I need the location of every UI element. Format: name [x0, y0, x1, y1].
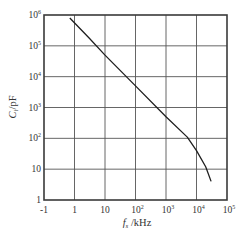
tick-label: 10 [100, 205, 110, 215]
y-label-unit: /pF [7, 95, 18, 109]
tick-label: 103 [162, 204, 175, 215]
data-curve [70, 18, 211, 181]
tick-label: 102 [131, 204, 144, 215]
grid-lines [44, 15, 227, 200]
tick-label: 104 [29, 71, 42, 82]
tick-label: 105 [29, 40, 42, 51]
tick-label: 1 [72, 205, 77, 215]
tick-label: 1 [36, 195, 41, 205]
tick-label: -1 [40, 205, 48, 215]
capacitance-frequency-chart: -1110102103104105 110102103104105106 fs … [0, 0, 239, 242]
y-axis-ticks: 110102103104105106 [29, 9, 42, 205]
tick-label: 104 [192, 204, 205, 215]
x-axis-label: fs /kHz [123, 217, 152, 230]
tick-label: 105 [223, 204, 236, 215]
tick-label: 103 [29, 102, 42, 113]
tick-label: 102 [29, 132, 42, 143]
x-axis-ticks: -1110102103104105 [40, 204, 235, 215]
tick-label: 10 [32, 164, 42, 174]
tick-label: 106 [29, 9, 42, 20]
y-axis-label: Ci/pF [7, 95, 20, 118]
x-label-unit: /kHz [128, 217, 151, 228]
